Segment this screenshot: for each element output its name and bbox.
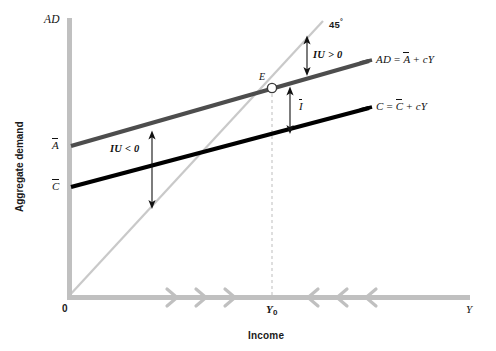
- y-tick-c-bar-label: C: [52, 180, 60, 192]
- autonomous-investment-label: I: [299, 100, 303, 112]
- consumption-line-label: C = C + cY: [376, 100, 427, 112]
- forty-five-degree-line: [68, 21, 323, 297]
- a-bar-overline: A: [52, 139, 59, 151]
- x-axis-end-label: Y: [466, 303, 472, 315]
- c-eq-c-bar: C: [396, 100, 404, 112]
- forty-five-degree-value: 45: [329, 19, 340, 30]
- x-tick-equilibrium-subscript: 0: [273, 308, 278, 317]
- y-axis-top-label: AD: [44, 13, 60, 25]
- ad-label-leader: [360, 60, 372, 63]
- c-bar-overline: C: [52, 180, 60, 192]
- y-tick-a-bar-label: A: [52, 139, 59, 151]
- unplanned-inventory-negative-arrow: [148, 131, 155, 210]
- figure-canvas: AD Aggregate demand 0 Income Y Y0 A C 45…: [0, 0, 496, 351]
- c-eq-equals: =: [387, 100, 393, 112]
- x-tick-equilibrium-label: Y0: [266, 303, 278, 317]
- ad-eq-ad: AD: [376, 53, 391, 65]
- ad-eq-a-bar: A: [403, 53, 410, 65]
- ad-eq-plus: +: [413, 53, 419, 65]
- x-tick-equilibrium-letter: Y: [266, 303, 273, 315]
- origin-label: 0: [62, 303, 68, 314]
- c-label-leader: [360, 107, 372, 110]
- ad-eq-equals: =: [394, 53, 400, 65]
- degree-symbol: °: [340, 18, 343, 25]
- c-eq-c: C: [376, 100, 384, 112]
- aggregate-demand-line-label: AD = A + cY: [376, 53, 434, 65]
- y-axis-title: Aggregate demand: [14, 121, 25, 212]
- equilibrium-point-marker: [267, 83, 276, 92]
- autonomous-investment-arrow: [286, 87, 293, 135]
- equilibrium-point-label: E: [259, 71, 265, 82]
- x-axis-title: Income: [248, 330, 284, 341]
- i-bar-overline: I: [299, 100, 303, 112]
- unplanned-inventory-positive-label: IU > 0: [313, 49, 342, 60]
- forty-five-degree-label: 45°: [329, 18, 343, 30]
- unplanned-inventory-negative-label: IU < 0: [110, 143, 139, 154]
- c-eq-plus: +: [406, 100, 412, 112]
- ad-eq-cy: cY: [423, 53, 434, 65]
- c-eq-cy: cY: [416, 100, 427, 112]
